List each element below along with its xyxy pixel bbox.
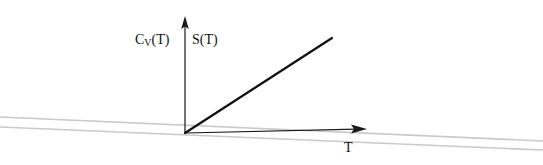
temperature-axis-label: T (344, 141, 353, 155)
heat-capacity-argument: (T) (152, 32, 170, 47)
y-axis (181, 16, 189, 133)
heat-capacity-subscript: V (144, 37, 151, 48)
heat-capacity-symbol: C (135, 32, 144, 47)
entropy-axis-label: S(T) (192, 33, 218, 47)
figure-canvas: CV(T) S(T) T (0, 0, 543, 165)
heat-capacity-axis-label: CV(T) (135, 33, 169, 48)
faint-line-upper (0, 117, 543, 141)
entropy-curve (185, 38, 332, 133)
figure-graphics (0, 0, 543, 165)
faint-background-lines (0, 117, 543, 150)
faint-line-lower (0, 127, 543, 150)
